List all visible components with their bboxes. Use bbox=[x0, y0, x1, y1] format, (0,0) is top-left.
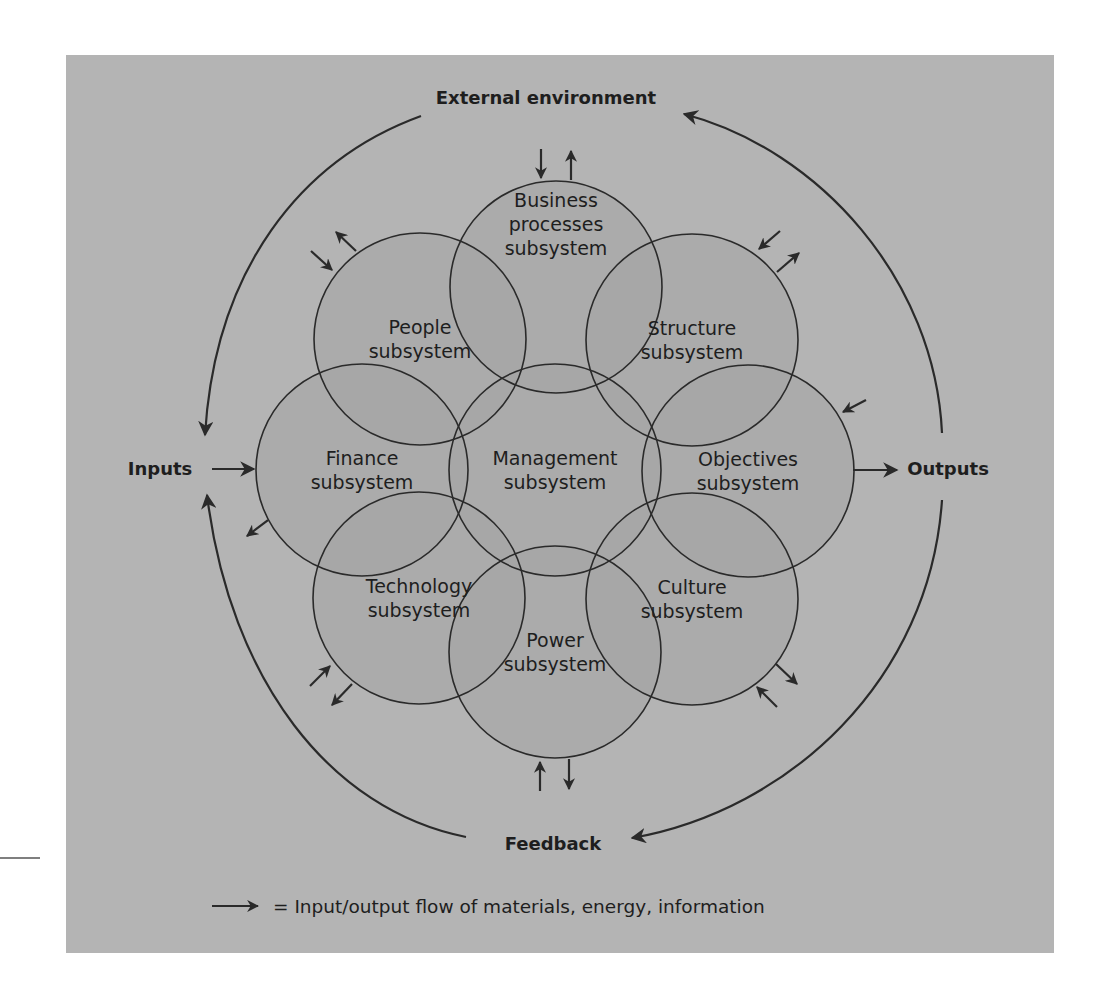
subsystem-label-business-processes: Businessprocessessubsystem bbox=[505, 189, 608, 259]
subsystem-label-line: Objectives bbox=[698, 448, 798, 470]
subsystem-label-line: Business bbox=[514, 189, 598, 211]
subsystem-label-line: subsystem bbox=[369, 340, 472, 362]
feedback-label: Feedback bbox=[505, 833, 603, 854]
subsystem-label-line: Structure bbox=[648, 317, 736, 339]
subsystem-label-line: Power bbox=[526, 629, 584, 651]
subsystem-label-line: Management bbox=[492, 447, 617, 469]
subsystem-label-line: subsystem bbox=[641, 341, 744, 363]
subsystem-label-line: processes bbox=[509, 213, 604, 235]
external-environment-label: External environment bbox=[436, 87, 657, 108]
subsystem-label-line: subsystem bbox=[311, 471, 414, 493]
subsystem-label-line: subsystem bbox=[641, 600, 744, 622]
legend: = Input/output flow of materials, energy… bbox=[212, 896, 765, 917]
subsystem-label-line: subsystem bbox=[368, 599, 471, 621]
inputs-label: Inputs bbox=[128, 458, 193, 479]
subsystem-label-line: People bbox=[388, 316, 451, 338]
subsystem-circle-power bbox=[449, 546, 661, 758]
subsystem-label-line: Culture bbox=[657, 576, 726, 598]
diagram-canvas: External environment Inputs Outputs Feed… bbox=[0, 0, 1101, 1003]
outputs-label: Outputs bbox=[907, 458, 989, 479]
subsystem-label-line: Technology bbox=[365, 575, 472, 597]
subsystem-label-line: subsystem bbox=[504, 653, 607, 675]
subsystem-label-line: subsystem bbox=[504, 471, 607, 493]
subsystem-label-line: subsystem bbox=[697, 472, 800, 494]
subsystem-label-line: Finance bbox=[326, 447, 399, 469]
legend-text: = Input/output flow of materials, energy… bbox=[273, 896, 765, 917]
open-system-diagram: External environment Inputs Outputs Feed… bbox=[0, 0, 1101, 1003]
subsystem-label-line: subsystem bbox=[505, 237, 608, 259]
